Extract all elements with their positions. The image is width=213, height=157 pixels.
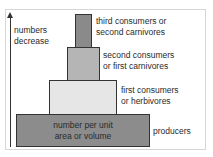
label-producers: producers xyxy=(153,126,191,137)
producers-inner-text: number per unit area or volume xyxy=(17,115,149,146)
pyramid-level-first-consumers xyxy=(49,80,117,115)
axis-arrow-line xyxy=(10,17,11,147)
pyramid-level-third-consumers xyxy=(75,14,92,48)
axis-label: numbers decrease xyxy=(14,25,49,47)
label-second-consumers: second consumers or first carnivores xyxy=(103,50,174,72)
pyramid-level-second-consumers xyxy=(67,47,100,81)
arrow-up-icon xyxy=(7,12,13,18)
label-first-consumers: first consumers or herbivores xyxy=(121,85,179,107)
label-third-consumers: third consumers or second carnivores xyxy=(96,16,166,38)
pyramid-level-producers: number per unit area or volume xyxy=(16,114,150,147)
